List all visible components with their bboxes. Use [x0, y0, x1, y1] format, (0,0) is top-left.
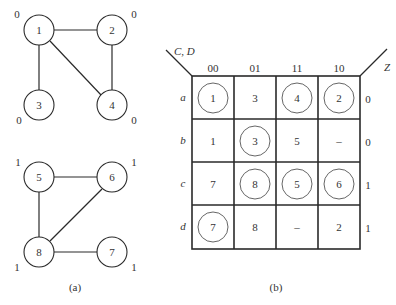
row-label-a: a	[180, 91, 186, 103]
cell-c-01: 8	[252, 178, 258, 190]
svg-text:7: 7	[109, 246, 115, 258]
svg-text:3: 3	[36, 99, 42, 111]
cell-c-11: 5	[294, 178, 300, 190]
cell-b-11: 5	[294, 135, 300, 147]
cell-d-10: 2	[336, 221, 342, 233]
cell-d-01: 8	[252, 221, 258, 233]
node-2: 2 0	[97, 8, 137, 45]
figure-canvas: 1 0 2 0 3 0 4 0 5 1 6	[0, 0, 396, 305]
cell-b-01: 3	[252, 135, 258, 147]
node-5: 5 1	[15, 156, 54, 192]
cell-b-10: –	[335, 135, 342, 147]
node-2-output: 0	[131, 8, 137, 20]
svg-text:4: 4	[109, 99, 115, 111]
graph-a-top: 1 0 2 0 3 0 4 0	[14, 8, 137, 126]
node-3: 3 0	[16, 90, 54, 126]
caption-a: (a)	[69, 281, 82, 294]
cell-d-11: –	[293, 221, 300, 233]
svg-text:5: 5	[36, 171, 42, 183]
cell-d-00: 7	[210, 221, 216, 233]
cell-a-11: 4	[294, 92, 300, 104]
flow-map-b: C, D Z 00 01 11 10 a b c d 0 0 1 1 1 3 4…	[166, 45, 391, 294]
column-header-11: 11	[292, 62, 303, 74]
node-8: 8 1	[14, 237, 54, 273]
edge-6-8	[50, 189, 102, 241]
output-row-b: 0	[365, 136, 371, 148]
node-7: 7 1	[97, 237, 137, 273]
corner-diagonal-right	[360, 49, 387, 76]
row-label-c: c	[181, 177, 186, 189]
node-8-output: 1	[14, 261, 20, 273]
column-header-10: 10	[334, 62, 346, 74]
svg-text:8: 8	[36, 246, 42, 258]
node-1-output: 0	[14, 8, 20, 20]
svg-text:1: 1	[36, 24, 42, 36]
cell-a-10: 2	[336, 92, 342, 104]
corner-label: C, D	[174, 45, 195, 57]
svg-text:2: 2	[109, 24, 115, 36]
row-label-d: d	[180, 220, 186, 232]
output-label: Z	[384, 61, 391, 73]
column-header-01: 01	[250, 62, 261, 74]
row-label-b: b	[180, 134, 186, 146]
graph-a-bottom: 5 1 6 1 8 1 7 1 (a)	[14, 156, 137, 294]
node-3-output: 0	[16, 114, 22, 126]
cell-c-10: 6	[336, 178, 342, 190]
node-4-output: 0	[131, 114, 137, 126]
edge-1-4	[50, 41, 102, 96]
output-row-c: 1	[365, 179, 371, 191]
node-7-output: 1	[131, 261, 137, 273]
caption-b: (b)	[270, 281, 283, 294]
cell-a-01: 3	[252, 92, 258, 104]
cell-b-00: 1	[210, 135, 216, 147]
output-row-d: 1	[365, 222, 371, 234]
node-6-output: 1	[131, 156, 137, 168]
svg-text:6: 6	[109, 171, 115, 183]
node-1: 1 0	[14, 8, 54, 45]
cell-c-00: 7	[210, 178, 216, 190]
cell-a-00: 1	[210, 92, 216, 104]
node-4: 4 0	[97, 90, 137, 126]
node-6: 6 1	[97, 156, 137, 192]
output-row-a: 0	[365, 93, 371, 105]
column-header-00: 00	[208, 62, 220, 74]
node-5-output: 1	[15, 156, 21, 168]
